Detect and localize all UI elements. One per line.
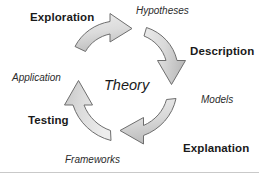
product-label-frameworks: Frameworks xyxy=(65,155,120,165)
phase-label-explanation: Explanation xyxy=(183,143,249,155)
bottom-divider xyxy=(0,172,259,173)
product-label-application: Application xyxy=(12,73,61,83)
phase-label-description: Description xyxy=(190,46,254,58)
phase-label-exploration: Exploration xyxy=(30,12,94,24)
theory-cycle-diagram: Exploration Hypotheses Description Model… xyxy=(0,0,259,173)
product-label-models: Models xyxy=(201,95,233,105)
product-label-hypotheses: Hypotheses xyxy=(136,6,189,16)
phase-label-testing: Testing xyxy=(28,115,69,127)
center-label-theory: Theory xyxy=(104,78,149,93)
arrow-bottom-explanation-to-frameworks xyxy=(120,99,176,145)
arrow-right-description-to-models xyxy=(144,28,186,85)
